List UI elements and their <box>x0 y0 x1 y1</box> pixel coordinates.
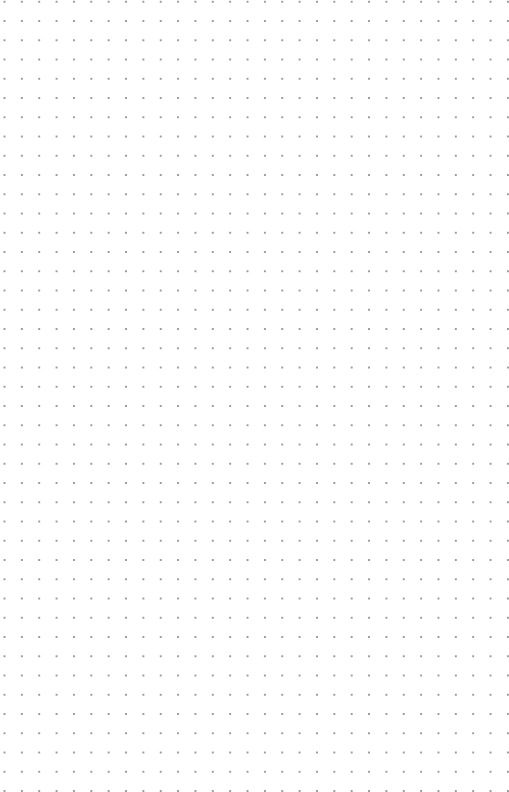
dot-grid-canvas[interactable] <box>0 0 509 792</box>
